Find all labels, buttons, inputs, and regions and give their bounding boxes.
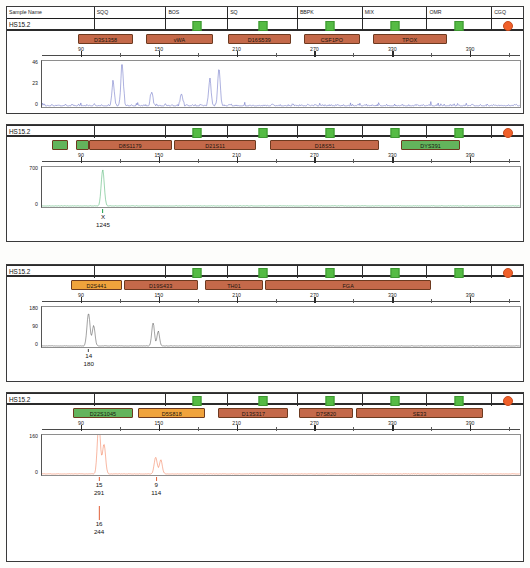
- locus-bar-tpox[interactable]: TPOX: [373, 34, 447, 44]
- locus-bar-d8s1179[interactable]: D8S1179: [89, 140, 172, 150]
- trace-curve: [42, 167, 520, 207]
- locus-bar-d16s539[interactable]: D16S539: [228, 34, 292, 44]
- trace-plot[interactable]: 1600: [7, 434, 523, 476]
- status-cell-mix[interactable]: [363, 126, 428, 138]
- sample-name-cell[interactable]: HS15.2: [7, 19, 95, 31]
- status-cell-omr[interactable]: [427, 394, 492, 406]
- locus-bar-csf1po[interactable]: CSF1PO: [304, 34, 360, 44]
- plot-area[interactable]: [41, 434, 521, 476]
- locus-bar-d5s818[interactable]: D5S818: [138, 408, 205, 418]
- locus-bar-fga[interactable]: FGA: [265, 280, 431, 290]
- trace-plot[interactable]: 7000: [7, 166, 523, 208]
- status-cell-bos[interactable]: [166, 266, 228, 278]
- status-cell-bos[interactable]: [166, 394, 228, 406]
- y-axis-label: 0: [35, 201, 38, 207]
- status-cell-sqq[interactable]: [95, 394, 167, 406]
- sample-row[interactable]: HS15.2: [7, 393, 523, 405]
- electropherogram-panel-3[interactable]: HS15.2 D2S441D19S433TH01FGA 901502102703…: [6, 264, 524, 382]
- axis-minor-tick: [276, 299, 277, 303]
- column-header-cgq[interactable]: CGQ: [492, 7, 523, 18]
- allele-call[interactable]: 14180: [84, 349, 94, 367]
- sample-row[interactable]: HS15.2: [7, 125, 523, 137]
- status-cell-omr[interactable]: [427, 126, 492, 138]
- status-cell-mix[interactable]: [363, 266, 428, 278]
- status-cell-cgq[interactable]: [492, 19, 523, 31]
- status-cell-mix[interactable]: [363, 394, 428, 406]
- status-chip-green-icon: [325, 268, 334, 278]
- status-cell-bos[interactable]: [166, 19, 228, 31]
- sample-row[interactable]: HS15.2: [7, 265, 523, 277]
- sample-name-cell[interactable]: HS15.2: [7, 126, 95, 138]
- locus-bar[interactable]: [76, 140, 89, 150]
- status-cell-cgq[interactable]: [492, 394, 523, 406]
- locus-bar-d13s317[interactable]: D13S317: [218, 408, 288, 418]
- status-cell-bbpk[interactable]: [298, 394, 363, 406]
- locus-bar-d21s11[interactable]: D21S11: [174, 140, 256, 150]
- sample-row[interactable]: HS15.2: [7, 19, 523, 31]
- allele-call[interactable]: 15291: [94, 477, 104, 496]
- electropherogram-panel-2[interactable]: HS15.2 D8S1179D21S11D18S51DYS391 9015021…: [6, 124, 524, 242]
- status-cell-sq[interactable]: [228, 19, 298, 31]
- locus-bar-dys391[interactable]: DYS391: [401, 140, 459, 150]
- axis-tick-label-390: 390: [466, 46, 475, 52]
- column-header-sq[interactable]: SQ: [228, 7, 298, 18]
- column-header-bbpk[interactable]: BBPK: [298, 7, 363, 18]
- axis-minor-tick: [353, 53, 354, 57]
- column-header-omr[interactable]: OMR: [427, 7, 492, 18]
- y-axis-label: 90: [32, 323, 38, 329]
- allele-call[interactable]: 9114: [151, 477, 161, 496]
- status-cell-bbpk[interactable]: [298, 266, 363, 278]
- status-cell-omr[interactable]: [427, 19, 492, 31]
- sample-name-cell[interactable]: HS15.2: [7, 266, 95, 278]
- status-cell-sqq[interactable]: [95, 126, 167, 138]
- y-axis-label: 180: [29, 305, 38, 311]
- locus-bar-d2s441[interactable]: D2S441: [71, 280, 123, 290]
- locus-bar-d3s1358[interactable]: D3S1358: [78, 34, 132, 44]
- y-axis-label: 0: [35, 341, 38, 347]
- y-axis: 46230: [7, 60, 41, 108]
- allele-call-layer: 15291911416244: [7, 476, 523, 556]
- column-header-mix[interactable]: MIX: [363, 7, 428, 18]
- status-cell-sq[interactable]: [228, 266, 298, 278]
- axis-tick-label-90: 90: [78, 46, 84, 52]
- status-cell-omr[interactable]: [427, 266, 492, 278]
- locus-bar-se33[interactable]: SE33: [356, 408, 483, 418]
- status-cell-sqq[interactable]: [95, 266, 167, 278]
- electropherogram-panel-4[interactable]: HS15.2 D22S1045D5S818D13S317D7S820SE33 9…: [6, 392, 524, 562]
- status-cell-bbpk[interactable]: [298, 19, 363, 31]
- locus-bar-d22s1045[interactable]: D22S1045: [73, 408, 133, 418]
- locus-bar[interactable]: [52, 140, 68, 150]
- status-cell-bbpk[interactable]: [298, 126, 363, 138]
- trace-plot[interactable]: 180900: [7, 306, 523, 348]
- axis-tick-label-210: 210: [232, 152, 241, 158]
- y-axis: 1600: [7, 434, 41, 476]
- axis-minor-tick: [353, 159, 354, 163]
- column-header-sample-name[interactable]: Sample Name: [7, 7, 95, 18]
- column-header-bos[interactable]: BOS: [166, 7, 228, 18]
- locus-bar-d7s820[interactable]: D7S820: [299, 408, 353, 418]
- electropherogram-panel-1[interactable]: Sample NameSQQBOSSQBBPKMIXOMRCGQ HS15.2 …: [6, 6, 524, 114]
- status-chip-green-icon: [192, 396, 201, 406]
- plot-area[interactable]: [41, 306, 521, 348]
- status-cell-mix[interactable]: [363, 19, 428, 31]
- column-header-sqq[interactable]: SQQ: [95, 7, 167, 18]
- plot-area[interactable]: [41, 60, 521, 108]
- trace-plot[interactable]: 46230: [7, 60, 523, 108]
- allele-call[interactable]: 16244: [94, 506, 104, 535]
- status-cell-sqq[interactable]: [95, 19, 167, 31]
- locus-bar-vwa[interactable]: vWA: [146, 34, 213, 44]
- locus-bar-d18s51[interactable]: D18S51: [270, 140, 379, 150]
- status-cell-sq[interactable]: [228, 126, 298, 138]
- y-axis-label: 160: [29, 433, 38, 439]
- sample-name-cell[interactable]: HS15.2: [7, 394, 95, 406]
- status-cell-cgq[interactable]: [492, 266, 523, 278]
- locus-bar-d19s433[interactable]: D19S433: [124, 280, 198, 290]
- locus-bar-th01[interactable]: TH01: [205, 280, 262, 290]
- allele-size-label: 244: [94, 528, 104, 536]
- allele-call[interactable]: X1245: [96, 209, 110, 228]
- status-cell-sq[interactable]: [228, 394, 298, 406]
- y-axis-label: 46: [32, 59, 38, 65]
- plot-area[interactable]: [41, 166, 521, 208]
- status-cell-bos[interactable]: [166, 126, 228, 138]
- status-cell-cgq[interactable]: [492, 126, 523, 138]
